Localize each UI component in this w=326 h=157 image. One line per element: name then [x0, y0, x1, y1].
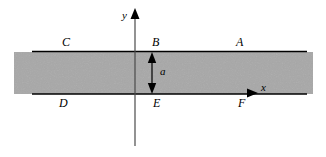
- y-axis-arrowhead: [131, 8, 140, 19]
- diagram-svg: [0, 0, 326, 157]
- point-label-c: C: [62, 36, 70, 48]
- y-axis-label: y: [122, 10, 127, 21]
- point-label-b: B: [152, 36, 159, 48]
- x-axis-label: x: [261, 82, 266, 93]
- figure-canvas: y x a C B A D E F: [0, 0, 326, 157]
- point-label-f: F: [238, 97, 245, 109]
- point-label-d: D: [59, 97, 68, 109]
- point-label-a: A: [236, 36, 243, 48]
- point-label-e: E: [153, 97, 160, 109]
- dimension-label-a: a: [160, 66, 166, 77]
